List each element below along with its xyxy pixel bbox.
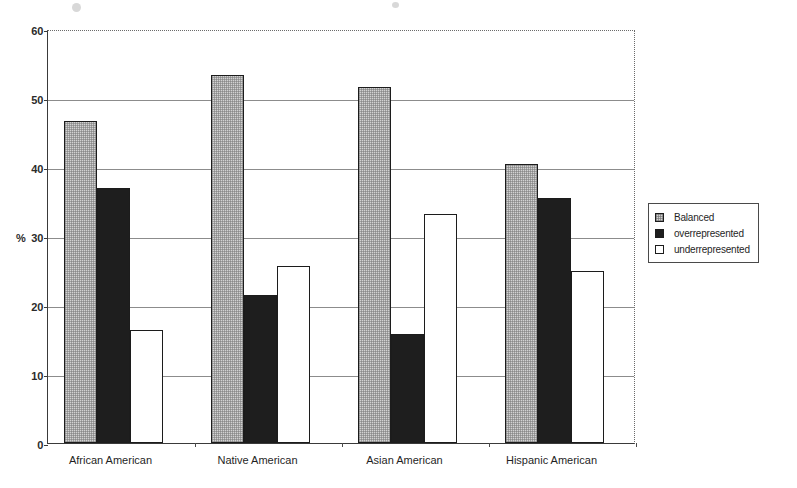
y-axis-tick-mark [44, 376, 48, 377]
legend-item-label: overrepresented [674, 228, 744, 239]
underrepresented-swatch [655, 245, 664, 254]
legend-item[interactable]: underrepresented [655, 241, 750, 257]
y-axis-tick-mark [44, 100, 48, 101]
bar [538, 198, 571, 443]
bar [424, 214, 457, 443]
y-axis-tick-mark [44, 238, 48, 239]
bar-group [505, 31, 604, 443]
legend-item-label: underrepresented [674, 244, 750, 255]
balanced-swatch [655, 213, 664, 222]
x-axis-tick-mark [195, 443, 196, 447]
y-axis-tick-mark [44, 31, 48, 32]
bar [130, 330, 163, 443]
y-axis-tick-label: 50 [31, 94, 43, 106]
y-axis-tick-label: 40 [31, 163, 43, 175]
x-axis-category-label: Native American [217, 454, 297, 466]
y-axis-tick-label: 30 [31, 232, 43, 244]
bar [244, 295, 277, 443]
bar-group [211, 31, 310, 443]
bar-group [358, 31, 457, 443]
y-axis-tick-label: 60 [31, 25, 43, 37]
y-axis-tick-mark [44, 445, 48, 446]
y-axis-tick-label: 0 [37, 439, 43, 451]
y-axis-title: % [16, 232, 26, 244]
x-axis-category-label: Hispanic American [506, 454, 597, 466]
bar [505, 164, 538, 443]
legend-item[interactable]: Balanced [655, 209, 750, 225]
x-axis-category-label: African American [69, 454, 152, 466]
y-axis-tick-label: 20 [31, 301, 43, 313]
bar [277, 266, 310, 443]
bar [211, 75, 244, 443]
y-axis-tick-mark [44, 169, 48, 170]
bar [358, 87, 391, 443]
x-axis-tick-mark [636, 443, 637, 447]
legend-item[interactable]: overrepresented [655, 225, 750, 241]
y-axis-tick-label: 10 [31, 370, 43, 382]
bar [64, 121, 97, 443]
overrepresented-swatch [655, 229, 664, 238]
bar [97, 188, 130, 443]
legend-item-label: Balanced [674, 212, 714, 223]
bar [571, 271, 604, 443]
x-axis-tick-mark [489, 443, 490, 447]
scan-artifact [392, 2, 399, 8]
bar-group [64, 31, 163, 443]
scan-artifact [72, 3, 81, 12]
x-axis-category-label: Asian American [366, 454, 442, 466]
bar-chart-figure: % 0102030405060 Balancedoverrepresentedu… [0, 0, 797, 488]
y-axis-tick-mark [44, 307, 48, 308]
plot-area: 0102030405060 [47, 30, 635, 444]
x-axis-tick-mark [342, 443, 343, 447]
bar [391, 334, 424, 443]
chart-legend: Balancedoverrepresentedunderrepresented [648, 203, 759, 263]
